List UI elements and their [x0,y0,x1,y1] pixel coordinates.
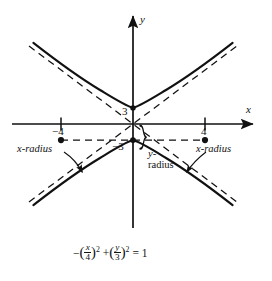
equation-fraction-y: y3 [114,243,121,263]
hyperbola-figure: x y −4 4 3 −3 x-radius x-radius y- radiu… [0,0,272,281]
y-vertex-label-minus3: −3 [112,141,124,153]
x-radius-right-arrow [187,152,207,173]
x-radius-right-text: x-radius [196,143,231,154]
x-radius-label-right: x-radius [196,143,231,154]
y-radius-line-1: y- [148,148,156,159]
equation-x-numerator: x [84,243,91,252]
y-vertex-label-3: 3 [122,106,128,118]
equation-label: −(x4)2 +(y3)2 = 1 [73,243,148,263]
equation-y-denominator: 3 [114,252,121,262]
x-axis-label: x [246,104,251,116]
vertex-dot-top [130,105,135,110]
equation-x-denominator: 4 [84,252,91,262]
y-radius-label: y- radius [148,148,174,170]
corner-dot-left [58,137,64,143]
y-radius-line-2: radius [148,159,174,170]
equation-equals-one: = 1 [132,247,147,259]
equation-exponent-2: 2 [126,245,130,254]
x-tick-label-4: 4 [201,126,207,138]
equation-exponent-1: 2 [96,245,100,254]
graph-canvas [0,0,272,281]
y-axis-label: y [140,14,145,26]
equation-y-numerator: y [114,243,121,252]
x-radius-left-text: x-radius [17,143,52,154]
x-radius-label-left: x-radius [17,143,52,154]
equation-fraction-x: x4 [84,243,91,263]
x-tick-label-minus4: −4 [52,126,64,138]
